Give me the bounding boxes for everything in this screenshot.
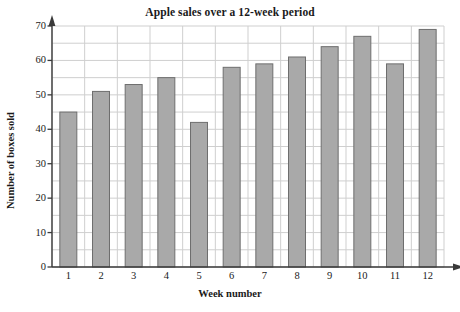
y-tick-label: 40 xyxy=(20,124,46,135)
plot-inner xyxy=(52,26,444,267)
y-axis-title-text: Number of boxes sold xyxy=(5,112,16,209)
x-tick-label: 8 xyxy=(282,271,312,282)
x-tick-label: 7 xyxy=(249,271,279,282)
y-tick-label: 70 xyxy=(20,21,46,32)
plot-area xyxy=(52,26,444,267)
x-tick-label: 1 xyxy=(53,271,83,282)
bar-chart-figure: Apple sales over a 12-week period Number… xyxy=(0,0,460,312)
y-tick-label: 60 xyxy=(20,55,46,66)
y-axis-tick-labels: 010203040506070 xyxy=(16,26,46,267)
x-tick-label: 12 xyxy=(413,271,443,282)
x-tick-label: 6 xyxy=(217,271,247,282)
x-tick-label: 11 xyxy=(380,271,410,282)
y-tick-label: 0 xyxy=(20,262,46,273)
x-axis-tick-labels: 123456789101112 xyxy=(52,271,444,287)
y-tick-label: 50 xyxy=(20,90,46,101)
x-axis-title: Week number xyxy=(0,288,460,299)
x-tick-label: 3 xyxy=(119,271,149,282)
y-tick-label: 10 xyxy=(20,228,46,239)
chart-title: Apple sales over a 12-week period xyxy=(0,6,460,18)
x-axis-arrow-icon xyxy=(453,264,460,271)
x-tick-label: 2 xyxy=(86,271,116,282)
axis-lines xyxy=(52,26,444,267)
x-tick-label: 10 xyxy=(347,271,377,282)
x-tick-label: 5 xyxy=(184,271,214,282)
y-tick-label: 20 xyxy=(20,193,46,204)
x-tick-label: 4 xyxy=(151,271,181,282)
y-tick-label: 30 xyxy=(20,159,46,170)
x-tick-label: 9 xyxy=(315,271,345,282)
